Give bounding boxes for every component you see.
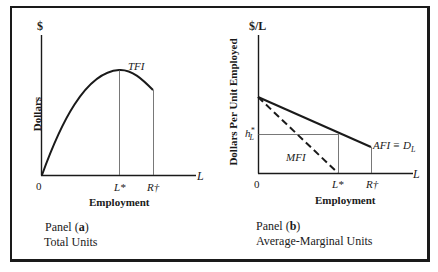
panel-a-lstar-label: L* — [114, 181, 126, 193]
caption-prefix: Panel ( — [256, 219, 290, 233]
caption-prefix: Panel ( — [45, 220, 79, 234]
panel-a-origin: 0 — [36, 180, 42, 192]
caption-suffix: ) — [85, 220, 89, 234]
panel-a-x-label: Employment — [89, 196, 150, 208]
panel-a-caption-line2: Total Units — [44, 235, 98, 250]
afi-sub: L — [411, 145, 415, 154]
panel-b-x-label: Employment — [315, 194, 376, 206]
caption-suffix: ) — [296, 219, 300, 233]
panel-a-y-label: Dollars — [31, 84, 43, 144]
afi-text: AFI ≡ D — [373, 139, 411, 151]
panel-b-h-label: h*L — [245, 127, 259, 141]
panel-b-caption-line1: Panel (b) — [256, 219, 300, 234]
panel-b-mfi-label: MFI — [286, 151, 306, 163]
panel-b-afi-label: AFI ≡ DL — [373, 139, 415, 153]
h-sub: L — [250, 133, 254, 142]
y-symbol-text: $/L — [249, 19, 266, 33]
panel-b-afi-line — [258, 97, 371, 147]
panel-a-x-symbol: L — [197, 170, 204, 182]
panel-b-rdagger-label: R† — [366, 178, 378, 190]
panel-b-caption-line2: Average-Marginal Units — [256, 234, 373, 249]
panel-a-rdagger-label: R† — [147, 181, 159, 193]
panel-b-y-symbol: $/L — [249, 20, 266, 32]
panel-a-tfi-label: TFI — [128, 60, 145, 72]
panel-b-origin: 0 — [254, 178, 260, 190]
panel-a-caption-line1: Panel (a) — [45, 220, 89, 235]
panel-a-tfi-curve — [42, 70, 153, 175]
panel-b-lstar-label: L* — [332, 178, 344, 190]
panel-a-y-symbol: $ — [37, 20, 43, 32]
panel-b-y-label: Dollars Per Unit Employed — [227, 37, 239, 167]
panel-b-x-symbol: L — [413, 168, 420, 180]
panel-a-axes — [41, 35, 196, 176]
